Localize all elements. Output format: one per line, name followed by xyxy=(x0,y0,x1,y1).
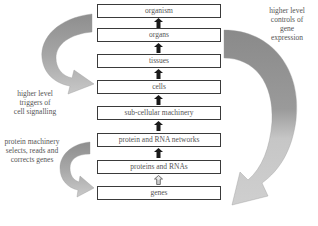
gene-correction-arrow xyxy=(60,142,94,197)
level-sub-cellular-machinery: sub-cellular machinery xyxy=(97,106,221,120)
up-arrow-icon xyxy=(154,18,163,28)
annotation-gene-expression-control: higher level controls of gene expression xyxy=(258,6,316,42)
annotation-line: protein machinery xyxy=(0,137,64,146)
up-arrow-icon xyxy=(154,148,163,158)
up-arrow-icon xyxy=(154,69,163,79)
annotation-line: higher level xyxy=(2,89,68,98)
annotation-line: selects, reads and xyxy=(0,146,64,155)
level-genes: genes xyxy=(97,186,221,200)
level-tissues: tissues xyxy=(97,54,221,68)
annotation-cell-signalling: higher level triggers of cell signalling xyxy=(2,89,68,116)
up-arrow-outlined-icon xyxy=(154,175,163,185)
cell-signalling-arrow xyxy=(42,14,94,94)
annotation-line: controls of xyxy=(258,15,316,24)
annotation-line: higher level xyxy=(258,6,316,15)
annotation-line: corrects genes xyxy=(0,155,64,164)
level-protein-rna-networks: protein and RNA networks xyxy=(97,133,221,147)
annotation-line: triggers of xyxy=(2,98,68,107)
annotation-line: expression xyxy=(258,33,316,42)
up-arrow-icon xyxy=(154,43,163,53)
annotation-gene-correction: protein machinery selects, reads and cor… xyxy=(0,137,64,164)
up-arrow-icon xyxy=(154,95,163,105)
annotation-line: cell signalling xyxy=(2,107,68,116)
level-organs: organs xyxy=(97,28,221,42)
level-proteins-rnas: proteins and RNAs xyxy=(97,160,221,174)
up-arrow-icon xyxy=(154,121,163,131)
level-organism: organism xyxy=(97,4,221,18)
annotation-line: gene xyxy=(258,24,316,33)
gene-expression-control-arrow xyxy=(224,30,297,205)
level-cells: cells xyxy=(97,80,221,94)
